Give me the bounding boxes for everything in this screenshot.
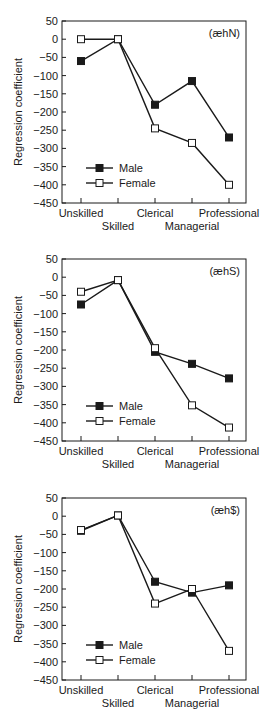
- x-tick-label: Clerical: [137, 684, 174, 696]
- legend-female-label: Female: [119, 415, 156, 427]
- legend: MaleFemale: [86, 162, 156, 189]
- y-tick-label: −50: [39, 528, 58, 540]
- x-tick-label: Professional: [199, 684, 260, 696]
- y-tick-label: −450: [33, 435, 58, 447]
- x-tick-label: Unskilled: [59, 207, 104, 219]
- y-axis-title: Regression coefficient: [12, 58, 24, 166]
- legend-male-marker-icon: [96, 165, 103, 172]
- line-chart-ahs: 500−50−100−150−200−250−300−350−400−450Re…: [0, 238, 272, 478]
- y-axis: 500−50−100−150−200−250−300−350−400−450: [33, 492, 66, 686]
- data-point: [189, 139, 196, 146]
- data-point: [189, 360, 196, 367]
- data-point: [78, 301, 85, 308]
- data-point: [226, 134, 233, 141]
- y-tick-label: −400: [33, 656, 58, 668]
- legend-male-marker-icon: [96, 642, 103, 649]
- data-point: [226, 424, 233, 431]
- x-tick-label: Managerial: [165, 697, 219, 709]
- legend-female-marker-icon: [96, 418, 103, 425]
- legend-male-marker-icon: [96, 403, 103, 410]
- y-tick-label: −450: [33, 674, 58, 686]
- legend: MaleFemale: [86, 639, 156, 666]
- y-tick-label: −400: [33, 417, 58, 429]
- y-axis-title: Regression coefficient: [12, 296, 24, 404]
- y-tick-label: −150: [33, 565, 58, 577]
- data-point: [78, 288, 85, 295]
- line-chart-ahdollar: 500−50−100−150−200−250−300−350−400−450Re…: [0, 477, 272, 717]
- legend-female-label: Female: [119, 177, 156, 189]
- y-tick-label: 0: [52, 33, 58, 45]
- x-tick-label: Skilled: [102, 697, 134, 709]
- legend-male-label: Male: [119, 400, 143, 412]
- x-tick-label: Skilled: [102, 220, 134, 232]
- data-point: [226, 647, 233, 654]
- y-tick-label: −300: [33, 380, 58, 392]
- y-tick-label: −150: [33, 326, 58, 338]
- data-point: [152, 101, 159, 108]
- x-tick-label: Managerial: [165, 458, 219, 470]
- y-tick-label: −200: [33, 583, 58, 595]
- x-tick-label: Skilled: [102, 458, 134, 470]
- y-tick-label: −250: [33, 601, 58, 613]
- panel-annotation: (æh$): [211, 504, 240, 516]
- y-tick-label: 50: [46, 15, 58, 27]
- data-point: [78, 58, 85, 65]
- data-point: [226, 181, 233, 188]
- y-axis-title: Regression coefficient: [12, 535, 24, 643]
- y-tick-label: −250: [33, 362, 58, 374]
- panel-annotation: (æhS): [209, 265, 240, 277]
- y-tick-label: −100: [33, 70, 58, 82]
- y-tick-label: −200: [33, 344, 58, 356]
- data-point: [152, 600, 159, 607]
- x-tick-label: Unskilled: [59, 684, 104, 696]
- y-tick-label: 50: [46, 253, 58, 265]
- y-tick-label: −300: [33, 619, 58, 631]
- data-point: [189, 402, 196, 409]
- y-tick-label: −150: [33, 88, 58, 100]
- series-male: [78, 277, 233, 382]
- x-tick-label: Professional: [199, 207, 260, 219]
- y-tick-label: −400: [33, 179, 58, 191]
- chart-panel-ahn: 500−50−100−150−200−250−300−350−400−450Re…: [0, 0, 272, 240]
- y-tick-label: −50: [39, 289, 58, 301]
- y-tick-label: −100: [33, 547, 58, 559]
- y-tick-label: 0: [52, 510, 58, 522]
- panel-annotation: (æhN): [209, 27, 240, 39]
- legend-male-label: Male: [119, 162, 143, 174]
- legend-female-marker-icon: [96, 180, 103, 187]
- x-tick-label: Clerical: [137, 445, 174, 457]
- chart-panel-ahs: 500−50−100−150−200−250−300−350−400−450Re…: [0, 238, 272, 478]
- y-tick-label: −250: [33, 124, 58, 136]
- data-point: [115, 512, 122, 519]
- y-tick-label: −350: [33, 161, 58, 173]
- data-point: [189, 586, 196, 593]
- chart-panel-ahdollar: 500−50−100−150−200−250−300−350−400−450Re…: [0, 477, 272, 717]
- legend-female-marker-icon: [96, 657, 103, 664]
- x-tick-label: Managerial: [165, 220, 219, 232]
- data-point: [226, 582, 233, 589]
- legend-male-label: Male: [119, 639, 143, 651]
- y-tick-label: −100: [33, 308, 58, 320]
- line-chart-ahn: 500−50−100−150−200−250−300−350−400−450Re…: [0, 0, 272, 240]
- y-axis: 500−50−100−150−200−250−300−350−400−450: [33, 15, 66, 209]
- y-tick-label: −450: [33, 197, 58, 209]
- plot-frame: [62, 21, 246, 203]
- x-tick-label: Unskilled: [59, 445, 104, 457]
- y-axis: 500−50−100−150−200−250−300−350−400−450: [33, 253, 66, 447]
- y-tick-label: −50: [39, 51, 58, 63]
- data-point: [152, 345, 159, 352]
- y-tick-label: 50: [46, 492, 58, 504]
- x-tick-label: Professional: [199, 445, 260, 457]
- data-point: [189, 78, 196, 85]
- y-tick-label: 0: [52, 271, 58, 283]
- data-point: [152, 125, 159, 132]
- series-male: [78, 512, 233, 596]
- data-point: [115, 277, 122, 284]
- y-tick-label: −300: [33, 142, 58, 154]
- y-tick-label: −350: [33, 399, 58, 411]
- y-tick-label: −200: [33, 106, 58, 118]
- x-tick-label: Clerical: [137, 207, 174, 219]
- legend: MaleFemale: [86, 400, 156, 427]
- legend-female-label: Female: [119, 654, 156, 666]
- data-point: [115, 36, 122, 43]
